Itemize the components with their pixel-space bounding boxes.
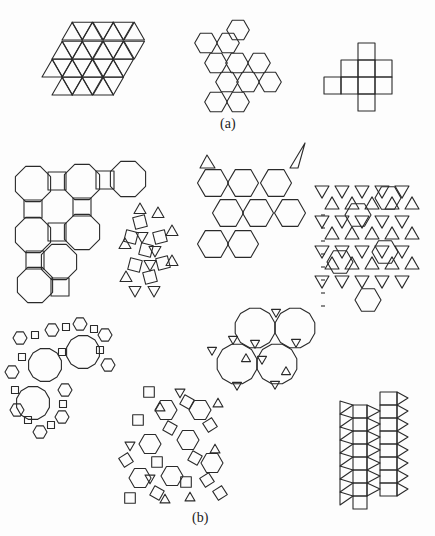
label-b: (b): [192, 510, 208, 526]
hexagon-tiling: [195, 20, 282, 112]
truncated-hexagonal-tiling: [208, 308, 315, 390]
label-a: (a): [220, 116, 236, 132]
snub-square-tiling: [119, 203, 178, 297]
triangle-tiling: [42, 22, 145, 95]
trihexagonal-tiling: [198, 143, 306, 257]
rhombitrihexagonal-tiling: [119, 387, 228, 504]
truncated-trihexagonal-tiling: [5, 318, 115, 438]
square-tiling: [324, 43, 392, 111]
elongated-triangular-tiling: [340, 392, 408, 509]
figure-canvas: (a) (b): [0, 0, 435, 536]
rhombitrihexagonal-square-tiling: [315, 186, 419, 311]
tilings-diagram: [0, 0, 435, 536]
